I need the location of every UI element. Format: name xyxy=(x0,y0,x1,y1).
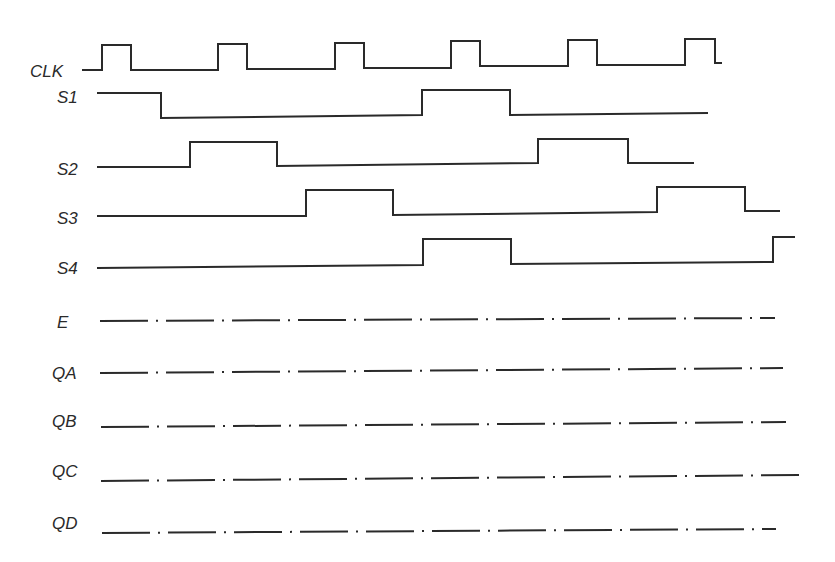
signal-row-clk: CLK xyxy=(30,39,722,81)
signal-label: QA xyxy=(52,364,77,383)
signal-label: S4 xyxy=(57,259,78,278)
waveform xyxy=(97,139,694,167)
signal-label: S1 xyxy=(57,88,78,107)
undefined-state-line xyxy=(101,422,786,427)
signal-row-s3: S3 xyxy=(57,187,780,228)
signal-label: S2 xyxy=(57,160,78,179)
undefined-state-line xyxy=(100,318,775,321)
waveform xyxy=(97,90,708,118)
signal-row-s2: S2 xyxy=(57,139,694,179)
signal-row-qc: QC xyxy=(52,462,799,481)
signal-label: QC xyxy=(52,462,78,481)
timing-diagram: CLKS1S2S3S4EQAQBQCQD xyxy=(0,0,835,562)
waveform xyxy=(82,39,722,70)
waveform xyxy=(97,237,795,268)
signal-label: QD xyxy=(52,514,78,533)
signal-label: S3 xyxy=(57,209,78,228)
undefined-state-line xyxy=(102,529,776,533)
waveform xyxy=(97,187,780,216)
undefined-state-line xyxy=(100,368,783,373)
signal-row-e: E xyxy=(57,313,775,332)
signal-row-qb: QB xyxy=(52,412,786,431)
signal-label: QB xyxy=(52,412,77,431)
signal-label: CLK xyxy=(30,62,64,81)
undefined-state-line xyxy=(101,475,799,481)
signal-row-qd: QD xyxy=(52,514,776,533)
signal-row-s1: S1 xyxy=(57,88,708,118)
signal-row-qa: QA xyxy=(52,364,783,383)
signal-group: CLKS1S2S3S4EQAQBQCQD xyxy=(30,39,799,533)
signal-label: E xyxy=(57,313,69,332)
signal-row-s4: S4 xyxy=(57,237,795,278)
